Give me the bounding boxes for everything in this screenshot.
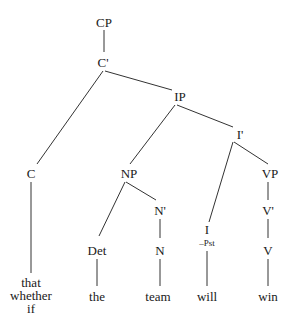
node-n-bar: N': [154, 204, 166, 217]
node-n: N: [155, 244, 164, 257]
node-ip: IP: [174, 90, 186, 103]
edge-NP-Det: [99, 182, 125, 236]
word-will: will: [197, 290, 217, 303]
edge-Ibar-I: [209, 142, 233, 222]
word-if: if: [10, 302, 52, 315]
word-the: the: [89, 290, 105, 303]
node-det: Det: [88, 244, 107, 257]
edge-Ibar-VP: [234, 142, 268, 164]
node-i: I: [205, 223, 209, 236]
edge-IP-Ibar: [177, 105, 233, 127]
edge-Cbar-IP: [105, 71, 172, 90]
feature-minus-past: –Pst: [199, 239, 215, 248]
edge-NP-Nbar: [126, 182, 156, 200]
node-v-bar: V': [262, 204, 274, 217]
edge-Cbar-C: [37, 71, 103, 164]
node-vp: VP: [262, 167, 279, 180]
node-i-bar: I': [237, 128, 244, 141]
node-v: V: [263, 244, 272, 257]
edge-IP-NP: [130, 105, 175, 164]
syntax-tree-diagram: CP C' IP I' C NP VP N' V' Det N I V –Pst…: [0, 0, 294, 326]
node-np: NP: [121, 167, 138, 180]
word-win: win: [258, 290, 278, 303]
node-c-bar: C': [97, 56, 108, 69]
word-complementizers: that whether if: [10, 276, 52, 315]
node-cp: CP: [96, 16, 112, 29]
node-c: C: [27, 167, 36, 180]
word-team: team: [145, 290, 170, 303]
